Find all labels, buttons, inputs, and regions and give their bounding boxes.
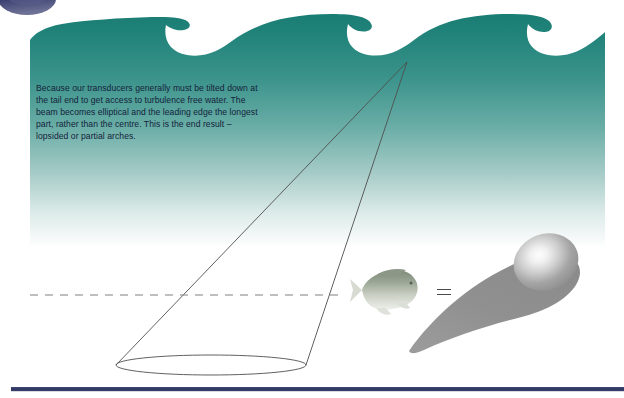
equals-sign [437,285,453,299]
equals-sign-top-bar [437,289,451,290]
caption-text: Because our transducers generally must b… [36,82,258,142]
fish-eye [410,282,413,285]
scene-illustration [0,0,624,398]
equals-sign-bottom-bar [437,294,451,295]
navy-footer-bar [11,387,624,391]
diagram-page: Because our transducers generally must b… [0,0,624,398]
